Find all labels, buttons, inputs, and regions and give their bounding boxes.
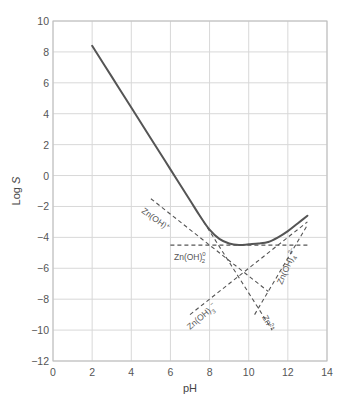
x-tick-label: 0 (50, 366, 56, 378)
y-tick-label: −8 (37, 293, 49, 305)
data-series (92, 46, 307, 330)
y-tick-label: 6 (43, 77, 49, 89)
x-tick-label: 12 (282, 366, 294, 378)
y-tick-label: −4 (37, 231, 49, 243)
label-zn-oh2: Zn(OH)02 (174, 251, 206, 264)
x-tick-label: 6 (168, 366, 174, 378)
plot-frame (53, 21, 327, 361)
y-tick-label: 4 (43, 108, 49, 120)
grid-lines (53, 21, 327, 361)
y-tick-label: 0 (43, 170, 49, 182)
x-axis-label: pH (183, 382, 197, 394)
y-axis-label: Log S (10, 176, 22, 205)
y-tick-label: 8 (43, 46, 49, 58)
label-zn-oh-plus: Zn(OH)+ (140, 206, 172, 233)
x-tick-label: 2 (89, 366, 95, 378)
y-tick-label: 10 (37, 15, 49, 27)
y-tick-label: 2 (43, 139, 49, 151)
x-tick-label: 4 (128, 366, 134, 378)
y-tick-label: −10 (31, 324, 49, 336)
x-axis-ticks: 02468101214 (50, 366, 333, 378)
x-tick-label: 14 (321, 366, 333, 378)
x-tick-label: 8 (207, 366, 213, 378)
series-total-solubility (92, 46, 307, 245)
y-tick-label: −2 (37, 200, 49, 212)
y-axis-ticks: 1086420−2−4−6−8−10−12 (31, 15, 49, 367)
y-tick-label: −12 (31, 355, 49, 367)
y-tick-label: −6 (37, 262, 49, 274)
solubility-chart: 02468101214 1086420−2−4−6−8−10−12 pH Log… (0, 0, 344, 401)
x-tick-label: 10 (243, 366, 255, 378)
